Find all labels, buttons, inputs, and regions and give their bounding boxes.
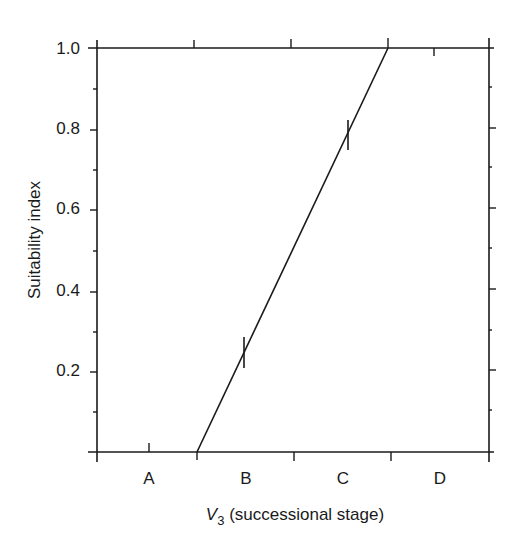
x-category-labels: A B C D <box>143 469 446 488</box>
suitability-chart: 1.0 0.8 0.6 0.4 0.2 A B C D Suitability … <box>0 0 520 545</box>
category-d: D <box>434 469 446 488</box>
suitability-line <box>197 48 388 452</box>
category-b: B <box>240 469 251 488</box>
y-tick-labels: 1.0 0.8 0.6 0.4 0.2 <box>56 39 80 380</box>
y-ticks-left <box>90 89 97 412</box>
x-ticks-top <box>194 38 434 56</box>
y-tick-0-8: 0.8 <box>56 119 80 138</box>
x-axis-rest: (successional stage) <box>224 505 384 524</box>
y-tick-0-4: 0.4 <box>56 281 80 300</box>
category-a: A <box>143 469 155 488</box>
x-axis-title: V3 (successional stage) <box>206 505 384 528</box>
category-c: C <box>337 469 349 488</box>
y-tick-0-2: 0.2 <box>56 361 80 380</box>
plot-frame <box>88 38 494 462</box>
y-tick-0-6: 0.6 <box>56 199 80 218</box>
y-ticks-right <box>489 87 496 410</box>
y-axis-title: Suitability index <box>25 180 44 299</box>
y-tick-1-0: 1.0 <box>56 39 80 58</box>
x-axis-subscript: 3 <box>217 513 224 528</box>
